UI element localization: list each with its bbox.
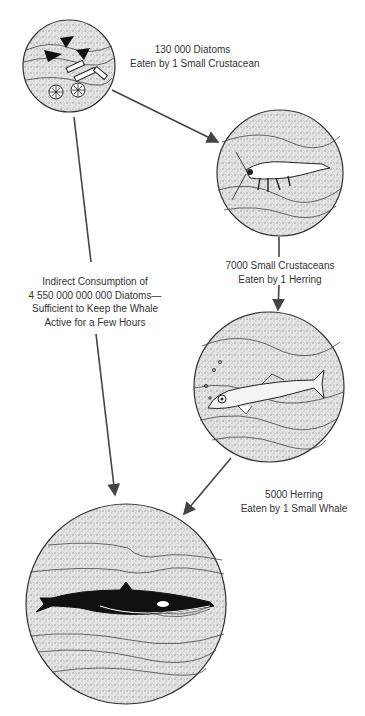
edge-label-diatoms-crustacean: 130 000 Diatoms Eaten by 1 Small Crustac… <box>130 43 255 70</box>
label-line: Active for a Few Hours <box>20 316 170 330</box>
arrow-label-to-herring <box>278 285 279 310</box>
label-line: Eaten by 1 Small Whale <box>234 502 354 516</box>
arrow-label-to-whale <box>96 334 115 495</box>
line-diatoms-to-label <box>74 117 91 262</box>
label-line: Eaten by 1 Herring <box>218 273 342 287</box>
label-line: 4 550 000 000 000 Diatoms— <box>20 289 170 303</box>
edge-label-herring-whale: 5000 Herring Eaten by 1 Small Whale <box>234 488 354 515</box>
edge-label-indirect-consumption: Indirect Consumption of 4 550 000 000 00… <box>20 275 170 329</box>
label-line: 7000 Small Crustaceans <box>218 259 342 273</box>
label-line: 5000 Herring <box>234 488 354 502</box>
whale-circle <box>26 504 226 704</box>
label-line: 130 000 Diatoms <box>130 43 255 57</box>
label-line: Indirect Consumption of <box>20 275 170 289</box>
food-chain-diagram <box>0 0 365 716</box>
label-line: Sufficient to Keep the Whale <box>20 302 170 316</box>
arrow-diatoms-to-crustacean <box>112 90 218 142</box>
arrow-herring-to-whale <box>184 458 231 514</box>
label-line: Eaten by 1 Small Crustacean <box>130 57 255 71</box>
edge-label-crustacean-herring: 7000 Small Crustaceans Eaten by 1 Herrin… <box>218 259 342 286</box>
herring-circle <box>194 312 344 462</box>
diatoms-circle <box>23 20 115 112</box>
crustacean-circle <box>217 110 343 236</box>
